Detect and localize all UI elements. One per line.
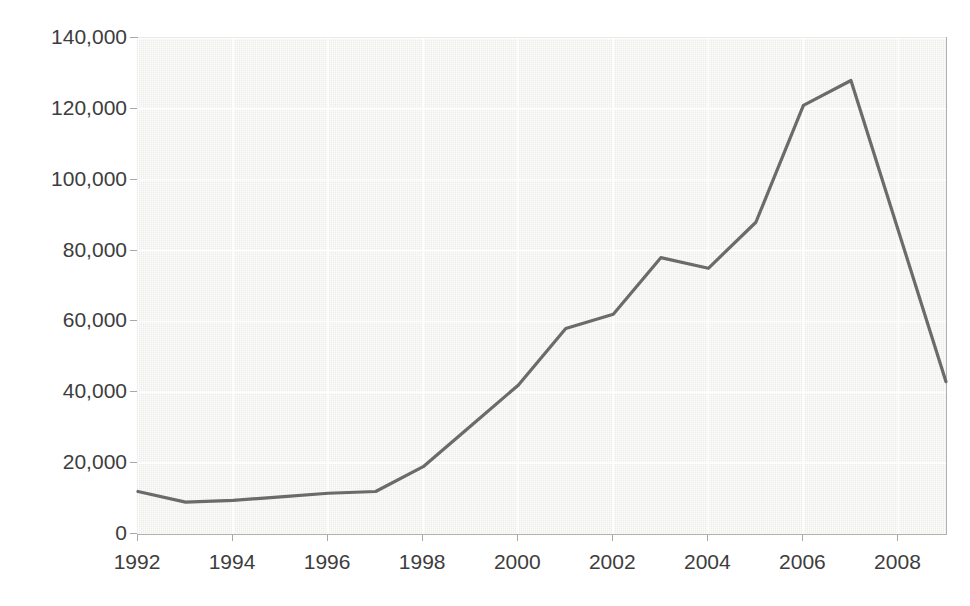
y-axis-tick-mark	[130, 37, 137, 38]
line-chart: 140,000120,000100,00080,00060,00040,0002…	[0, 0, 970, 606]
y-axis-tick-mark	[130, 250, 137, 251]
y-axis-tick-mark	[130, 108, 137, 109]
y-axis-tick-mark	[130, 391, 137, 392]
x-axis-tick-mark	[897, 534, 898, 541]
x-axis-tick-mark	[802, 534, 803, 541]
y-axis-tick-label: 40,000	[7, 380, 127, 401]
y-axis-tick-label: 140,000	[7, 26, 127, 47]
x-axis-tick-mark	[707, 534, 708, 541]
chart-title-cropped	[0, 0, 970, 6]
x-axis-tick-mark	[422, 534, 423, 541]
y-axis-tick-mark	[130, 179, 137, 180]
x-axis-tick-mark	[137, 534, 138, 541]
y-axis-tick-label: 100,000	[7, 168, 127, 189]
y-axis-tick-label: 120,000	[7, 97, 127, 118]
y-axis-tick-label: 0	[7, 522, 127, 543]
x-axis-tick-mark	[517, 534, 518, 541]
series-line-series-1	[138, 81, 946, 503]
y-axis-tick-mark	[130, 320, 137, 321]
x-axis-tick-mark	[327, 534, 328, 541]
x-axis-tick-mark	[612, 534, 613, 541]
x-axis-tick-mark	[232, 534, 233, 541]
y-axis-tick-mark	[130, 462, 137, 463]
x-axis-tick-label: 2008	[837, 551, 957, 572]
y-axis-tick-label: 80,000	[7, 239, 127, 260]
y-axis-tick-label: 20,000	[7, 451, 127, 472]
y-axis-tick-mark	[130, 533, 137, 534]
data-series-line	[138, 38, 946, 534]
y-axis-tick-label: 60,000	[7, 309, 127, 330]
plot-area	[137, 37, 947, 535]
